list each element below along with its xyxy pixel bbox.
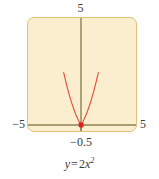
y-axis-min-label: −0.5 xyxy=(0,136,159,148)
equation-operator: = xyxy=(70,157,79,171)
equation-exponent: 2 xyxy=(90,156,94,165)
graph-canvas xyxy=(28,18,136,131)
x-axis-max-label: 5 xyxy=(140,118,146,130)
parabola-graph-figure: 5 −5 5 −0.5 y=2x2 xyxy=(0,0,159,179)
y-axis-max-label: 5 xyxy=(0,2,159,14)
equation-caption: y=2x2 xyxy=(0,157,159,172)
plot-area xyxy=(27,17,137,132)
x-axis-min-label: −5 xyxy=(3,118,25,130)
vertex-marker-icon xyxy=(79,122,84,127)
plot-interior xyxy=(28,18,136,131)
